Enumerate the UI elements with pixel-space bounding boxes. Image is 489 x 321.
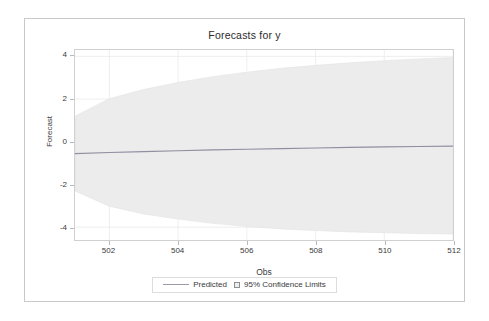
legend-label-predicted: Predicted [193, 280, 227, 289]
plot-svg [75, 50, 453, 240]
x-tick-label: 510 [368, 246, 402, 255]
plot-area [74, 49, 454, 241]
line-swatch-icon [163, 284, 189, 285]
x-tick-label: 512 [437, 246, 471, 255]
x-tick-label: 504 [161, 246, 195, 255]
x-tick-label: 506 [230, 246, 264, 255]
legend-label-confidence-limits: 95% Confidence Limits [244, 280, 326, 289]
x-tick-mark [454, 241, 455, 245]
screenshot-root: Forecasts for y Forecast 420-2-4 5025045… [0, 0, 489, 321]
x-tick-mark [178, 241, 179, 245]
legend-entry-predicted: Predicted [163, 280, 227, 289]
box-swatch-icon [234, 282, 240, 288]
y-tick-label: -2 [45, 180, 67, 189]
legend-entry-confidence-limits: 95% Confidence Limits [234, 280, 326, 289]
legend-box: Predicted 95% Confidence Limits [152, 277, 337, 293]
chart-legend: Predicted 95% Confidence Limits [25, 277, 464, 293]
confidence-band-area [75, 57, 453, 234]
x-tick-mark [247, 241, 248, 245]
x-tick-mark [109, 241, 110, 245]
y-axis-label: Forecast [45, 102, 54, 162]
page-title: Forecasts for y [25, 29, 464, 41]
x-tick-mark [316, 241, 317, 245]
x-tick-mark [385, 241, 386, 245]
graph-card: Forecasts for y Forecast 420-2-4 5025045… [24, 18, 465, 302]
x-axis-label: Obs [74, 267, 454, 277]
y-tick-label: -4 [45, 223, 67, 232]
y-tick-label: 4 [45, 50, 67, 59]
x-tick-label: 508 [299, 246, 333, 255]
x-tick-label: 502 [92, 246, 126, 255]
